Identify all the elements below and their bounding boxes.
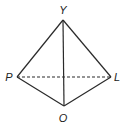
vertex-label-y: Y bbox=[59, 4, 67, 16]
vertex-label-o: O bbox=[59, 112, 68, 124]
edge-y-o bbox=[63, 20, 64, 106]
edge-y-p bbox=[17, 20, 63, 77]
geometry-figure: Y P L O bbox=[0, 0, 125, 133]
edge-y-l bbox=[63, 20, 111, 77]
edge-p-o bbox=[17, 77, 64, 106]
vertex-label-p: P bbox=[5, 71, 13, 83]
vertex-label-l: L bbox=[114, 71, 120, 83]
edge-l-o bbox=[64, 77, 111, 106]
